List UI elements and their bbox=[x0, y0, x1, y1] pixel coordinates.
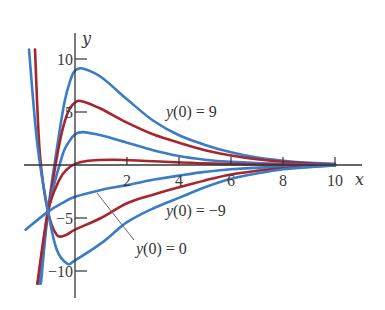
annotation-y0-9: y(0) = 9 bbox=[164, 103, 217, 121]
x-axis-label: x bbox=[355, 170, 364, 189]
curve-y0-0 bbox=[37, 160, 335, 284]
x-tick-label: 10 bbox=[327, 172, 343, 189]
y-tick-label: 10 bbox=[57, 51, 73, 68]
y-tick-label: 5 bbox=[65, 104, 73, 121]
y-axis-label: y bbox=[81, 29, 92, 48]
y-tick-label: −5 bbox=[56, 210, 73, 227]
annotation-y0-neg9: y(0) = −9 bbox=[164, 202, 226, 220]
curve-y0-9 bbox=[41, 68, 335, 284]
x-tick-label: 4 bbox=[175, 172, 183, 189]
x-tick-label: 2 bbox=[123, 172, 131, 189]
annotation-y0-zero: y(0) = 0 bbox=[134, 240, 187, 258]
x-tick-label: 8 bbox=[279, 172, 287, 189]
y-tick-label: −10 bbox=[48, 263, 73, 280]
solution-curves-plot: 246810 105−5−10 y x y(0) = 9 y(0) = −9 y… bbox=[0, 0, 385, 310]
x-tick-label: 6 bbox=[227, 172, 235, 189]
